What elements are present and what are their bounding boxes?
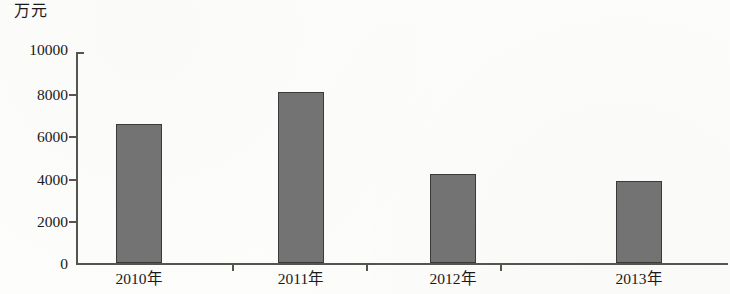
- x-tick-mark-3: [500, 264, 502, 271]
- x-category-label-2010: 2010年: [94, 268, 184, 290]
- y-tick-mark-2000: [69, 221, 77, 223]
- bar-2010: [116, 124, 162, 263]
- x-category-label-2012: 2012年: [408, 268, 498, 290]
- plot-area: 2010年 2011年 2012年 2013年: [0, 0, 730, 294]
- bar-2011: [278, 92, 324, 263]
- y-tick-mark-4000: [69, 179, 77, 181]
- x-category-label-2013: 2013年: [594, 268, 684, 290]
- x-axis-line: [76, 263, 728, 265]
- bar-2012: [430, 174, 476, 263]
- y-tick-mark-6000: [69, 136, 77, 138]
- bar-chart: 万元 10000 8000 6000 4000 2000 0 2010年 201…: [0, 0, 730, 294]
- y-tick-mark-8000: [69, 94, 77, 96]
- y-axis-top-cap: [76, 52, 84, 54]
- bar-2013: [616, 181, 662, 263]
- x-category-label-2011: 2011年: [256, 268, 346, 290]
- y-axis-line: [76, 52, 78, 264]
- x-tick-mark-1: [232, 264, 234, 271]
- x-tick-mark-2: [366, 264, 368, 271]
